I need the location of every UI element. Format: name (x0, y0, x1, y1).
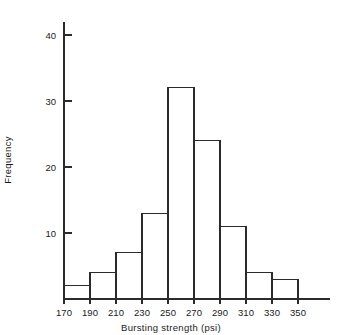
x-tick-label: 270 (186, 307, 202, 318)
histogram-plot: 170190210230250270290310330350 10203040 … (0, 0, 342, 335)
x-axis-title: Bursting strength (psi) (121, 322, 221, 333)
y-tick-label: 20 (45, 162, 56, 173)
histogram-bar (246, 273, 272, 299)
y-tick-label: 10 (45, 228, 56, 239)
y-axis-title: Frequency (2, 136, 13, 184)
bars (64, 88, 298, 299)
x-tick-label: 230 (134, 307, 150, 318)
histogram-bar (142, 213, 168, 299)
x-tick-label: 310 (238, 307, 254, 318)
x-tick-label: 290 (212, 307, 228, 318)
y-axis-ticks: 10203040 (45, 30, 72, 239)
x-tick-label: 170 (56, 307, 72, 318)
histogram-bar (168, 88, 194, 299)
x-tick-label: 250 (160, 307, 176, 318)
histogram-bar (272, 279, 298, 299)
axes (64, 22, 330, 299)
histogram-bar (194, 141, 220, 299)
x-tick-label: 330 (264, 307, 280, 318)
histogram-bar (220, 226, 246, 299)
x-tick-label: 350 (290, 307, 306, 318)
y-tick-label: 40 (45, 30, 56, 41)
histogram-bar (64, 286, 90, 299)
x-tick-label: 190 (82, 307, 98, 318)
x-tick-label: 210 (108, 307, 124, 318)
histogram-figure: 170190210230250270290310330350 10203040 … (0, 0, 342, 335)
x-axis-ticks: 170190210230250270290310330350 (56, 299, 306, 318)
histogram-bar (90, 273, 116, 299)
histogram-bar (116, 253, 142, 299)
y-tick-label: 30 (45, 96, 56, 107)
